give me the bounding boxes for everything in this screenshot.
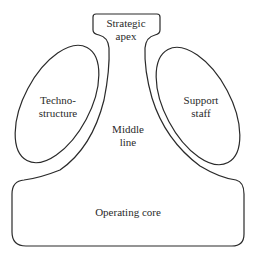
- support-staff-label: Support staff: [184, 94, 219, 120]
- technostructure-label: Techno- structure: [39, 94, 77, 120]
- middle-line-label: Middle line: [112, 123, 144, 149]
- strategic-apex-label: Strategic apex: [106, 17, 145, 43]
- mintzberg-diagram: Strategic apex Techno- structure Support…: [0, 0, 258, 261]
- operating-core-label: Operating core: [95, 206, 161, 219]
